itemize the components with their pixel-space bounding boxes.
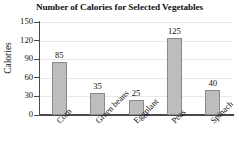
y-tick-mark (34, 22, 40, 23)
y-tick-label: 90 (1, 54, 33, 63)
gridline (40, 41, 232, 42)
y-tick-label: 30 (1, 91, 33, 100)
y-tick-label-wrap: 150 (0, 17, 33, 26)
y-tick-mark (34, 96, 40, 97)
y-tick-label: 120 (1, 36, 33, 45)
gridline (40, 22, 232, 23)
y-tick-label: 150 (1, 17, 33, 26)
y-tick-label-wrap: 0 (0, 110, 33, 119)
y-tick-label-wrap: 120 (0, 36, 33, 45)
chart-title: Number of Calories for Selected Vegetabl… (0, 2, 239, 13)
y-tick-label: 60 (1, 73, 33, 82)
calories-bar-chart: Number of Calories for Selected Vegetabl… (0, 0, 239, 160)
y-tick-mark (34, 115, 40, 116)
y-tick-label: 0 (1, 110, 33, 119)
y-tick-label-wrap: 90 (0, 54, 33, 63)
y-tick-label-wrap: 60 (0, 73, 33, 82)
y-tick-mark (34, 77, 40, 78)
y-tick-label-wrap: 30 (0, 91, 33, 100)
bar-value-label: 40 (193, 79, 233, 88)
y-tick-mark (34, 40, 40, 41)
bar-value-label: 125 (154, 27, 194, 36)
bar-value-label: 35 (78, 82, 118, 91)
bar-value-label: 85 (39, 51, 79, 60)
bar (167, 38, 182, 116)
